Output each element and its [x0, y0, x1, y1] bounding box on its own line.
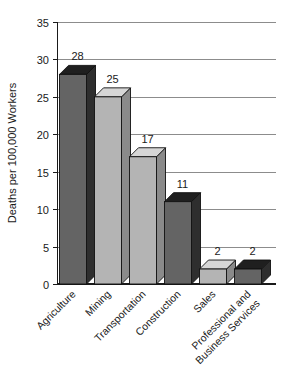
bar-group	[235, 260, 271, 284]
y-tick-label: 5	[43, 242, 49, 254]
bar-chart: 05101520253035 2825171122 AgricultureMin…	[0, 0, 293, 390]
bar-group	[95, 88, 131, 284]
bar-front-face	[235, 269, 262, 284]
bar-front-face	[60, 74, 87, 284]
bar-front-face	[95, 97, 122, 284]
bar-group	[165, 193, 201, 284]
bar-value-label: 2	[249, 245, 255, 257]
bar-group	[130, 148, 166, 284]
y-tick-label: 25	[37, 92, 49, 104]
y-tick-label: 30	[37, 54, 49, 66]
bar-value-label: 28	[71, 50, 83, 62]
bar-value-label: 11	[177, 178, 188, 190]
y-tick-label: 0	[43, 279, 49, 291]
y-axis-title: Deaths per 100,000 Workers	[6, 82, 18, 223]
bar-value-label: 25	[106, 73, 118, 85]
bar-group	[200, 260, 236, 284]
bar-value-label: 17	[141, 133, 153, 145]
y-tick-label: 15	[37, 167, 49, 179]
bar-value-label: 2	[214, 245, 220, 257]
y-tick-label: 35	[37, 17, 49, 29]
bar-front-face	[200, 269, 227, 284]
y-tick-label: 20	[37, 129, 49, 141]
chart-canvas: 05101520253035 2825171122 AgricultureMin…	[0, 0, 293, 390]
bar-front-face	[165, 202, 192, 284]
bar-front-face	[130, 157, 157, 284]
y-tick-label: 10	[37, 204, 49, 216]
bar-group	[60, 65, 96, 284]
